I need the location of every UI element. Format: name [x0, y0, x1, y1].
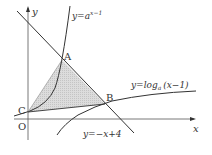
origin-label: O — [18, 121, 26, 132]
x-axis-label: x — [193, 123, 199, 134]
diagram: y x O A B C y=ax−1 y=loga(x−1) y=−x+4 — [0, 0, 212, 155]
shaded-region — [28, 60, 105, 112]
point-C-label: C — [18, 105, 26, 116]
point-B-label: B — [106, 92, 113, 103]
point-A-label: A — [63, 51, 72, 62]
y-axis-label: y — [31, 6, 38, 17]
line-label: y=−x+4 — [82, 129, 122, 139]
line-neg-x-plus-4 — [17, 11, 134, 133]
exp-curve-label: y=ax−1 — [71, 9, 102, 21]
x-axis-arrow-icon — [190, 117, 196, 121]
y-axis-arrow-icon — [26, 6, 30, 12]
log-curve-label: y=loga(x−1) — [130, 80, 189, 91]
